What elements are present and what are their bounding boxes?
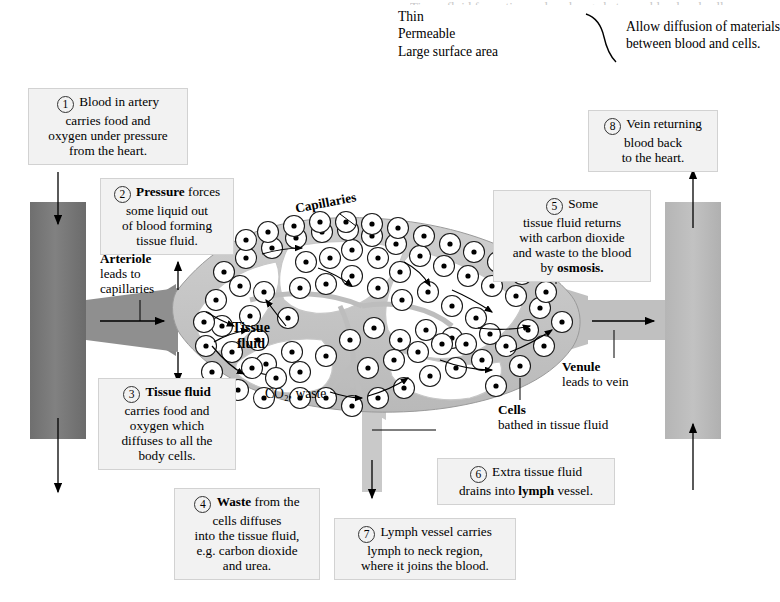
callout-7-number: 7 (358, 526, 375, 543)
label-cells: Cells bathed in tissue fluid (498, 403, 608, 433)
callout-6-number: 6 (470, 466, 487, 483)
label-tissue-fluid-line2: fluid (232, 336, 270, 352)
callout-4-line-4: e.g. carbon dioxide (181, 543, 313, 558)
callout-3-line-1: 3 Tissue fluid (105, 384, 229, 403)
callout-4-line-3: into the tissue fluid, (181, 528, 313, 543)
callout-5-line-2: tissue fluid returns (500, 215, 644, 230)
callout-5-line-4: and waste to the blood (500, 245, 644, 260)
callout-1-line-3: oxygen under pressure (35, 128, 181, 143)
callout-2-line-1: 2 Pressure forces (107, 184, 227, 203)
callout-4-line-1: 4 Waste from the (181, 494, 313, 513)
callout-3-line-2: carries food and (105, 403, 229, 418)
label-cells-head: Cells (498, 403, 608, 418)
label-venule-head: Venule (562, 360, 629, 375)
label-arteriole-line2: leads to (100, 267, 154, 282)
callout-1-line-1: 1 Blood in artery (35, 94, 181, 113)
callout-3-line-5: body cells. (105, 448, 229, 463)
callout-3-line-4: diffuses to all the (105, 433, 229, 448)
label-venule: Venule leads to vein (562, 360, 629, 390)
label-tissue-fluid: Tissue fluid (232, 320, 270, 351)
label-tissue-fluid-line1: Tissue (232, 320, 270, 336)
callout-1-number: 1 (57, 96, 74, 113)
callout-5[interactable]: 5 Sometissue fluid returnswith carbon di… (493, 190, 651, 282)
callout-4-number: 4 (194, 496, 211, 513)
callout-7-line-1: 7 Lymph vessel carries (341, 524, 509, 543)
property-thin: Thin (398, 8, 498, 25)
callout-3[interactable]: 3 Tissue fluidcarries food andoxygen whi… (98, 378, 236, 470)
callout-4-line-2: cells diffuses (181, 513, 313, 528)
callout-8-line-3: to the heart. (595, 150, 711, 165)
callout-6[interactable]: 6 Extra tissue fluiddrains into lymph ve… (437, 458, 615, 505)
curly-brace-right-icon (584, 10, 618, 70)
diffusion-result-text: Allow diffusion of materials between blo… (626, 19, 780, 53)
callout-2-line-4: tissue fluid. (107, 233, 227, 248)
callout-8[interactable]: 8 Vein returningblood backto the heart. (588, 110, 718, 172)
capillary-properties-list: Thin Permeable Large surface area (398, 8, 498, 60)
callout-7-line-3: where it joins the blood. (341, 558, 509, 573)
callout-8-number: 8 (604, 118, 621, 135)
callout-1-line-2: carries food and (35, 113, 181, 128)
callout-3-line-3: oxygen which (105, 418, 229, 433)
result-line-2: between blood and cells. (626, 36, 780, 53)
cropped-title-text: Tissue fluid formation and exchange betw… (410, 0, 729, 5)
callout-2-line-2: some liquid out (107, 203, 227, 218)
result-line-1: Allow diffusion of materials (626, 19, 780, 36)
property-permeable: Permeable (398, 25, 498, 42)
callout-1[interactable]: 1 Blood in arterycarries food andoxygen … (28, 88, 188, 165)
label-arteriole-head: Arteriole (100, 252, 154, 267)
callout-6-line-2: drains into lymph vessel. (444, 483, 608, 498)
label-cells-line2: bathed in tissue fluid (498, 418, 608, 433)
callout-3-number: 3 (123, 386, 140, 403)
callout-8-line-1: 8 Vein returning (595, 116, 711, 135)
label-arteriole: Arteriole leads to capillaries (100, 252, 154, 296)
callout-1-line-4: from the heart. (35, 143, 181, 158)
callout-2-number: 2 (114, 186, 131, 203)
callout-5-line-1: 5 Some (500, 196, 644, 215)
label-co2-waste-text: CO₂, waste (265, 386, 326, 401)
callout-5-line-5: by osmosis. (500, 260, 644, 275)
callout-5-number: 5 (546, 198, 563, 215)
callout-7[interactable]: 7 Lymph vessel carrieslymph to neck regi… (334, 518, 516, 580)
callout-7-line-2: lymph to neck region, (341, 543, 509, 558)
label-co2-waste: CO₂, waste (265, 386, 326, 401)
callout-6-line-1: 6 Extra tissue fluid (444, 464, 608, 483)
callout-5-line-3: with carbon dioxide (500, 230, 644, 245)
callout-4-line-5: and urea. (181, 558, 313, 573)
label-arteriole-line3: capillaries (100, 282, 154, 297)
callout-2-line-3: of blood forming (107, 218, 227, 233)
callout-8-line-2: blood back (595, 135, 711, 150)
leader-capillaries (340, 214, 356, 226)
label-venule-line2: leads to vein (562, 375, 629, 390)
callout-4[interactable]: 4 Waste from thecells diffusesinto the t… (174, 488, 320, 580)
property-large-surface-area: Large surface area (398, 43, 498, 60)
callout-2[interactable]: 2 Pressure forcessome liquid outof blood… (100, 178, 234, 255)
